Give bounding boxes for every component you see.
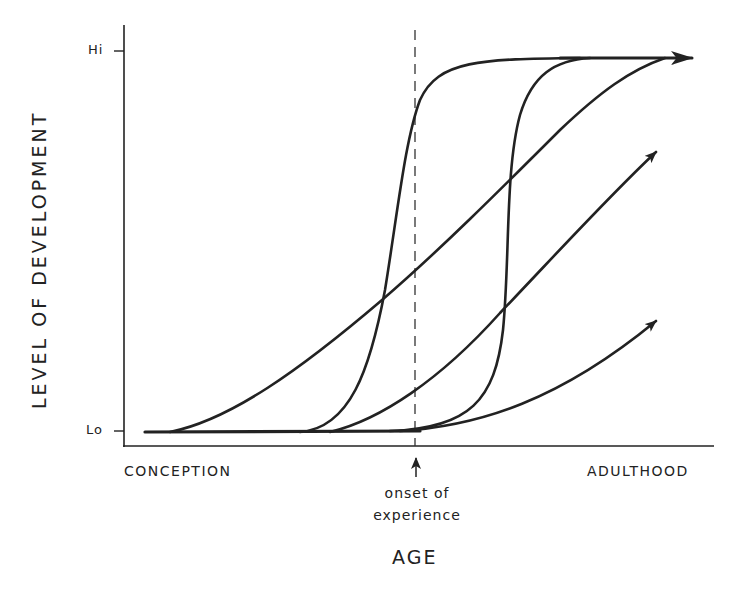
curve-slow: [400, 321, 656, 431]
curve-moderate: [330, 152, 656, 432]
x-label-adulthood: ADULTHOOD: [587, 463, 689, 479]
x-label-conception: CONCEPTION: [124, 463, 232, 479]
onset-line1: onset of: [372, 482, 462, 504]
curve-rapid-late: [390, 58, 590, 431]
y-tick-label-hi: Hi: [88, 42, 103, 57]
curves: [145, 58, 692, 432]
onset-of-experience-label: onset of experience: [372, 482, 462, 526]
y-tick-label-lo: Lo: [86, 422, 103, 437]
curve-rapid-early: [300, 58, 580, 432]
curve-gradual: [170, 58, 665, 432]
onset-line2: experience: [372, 504, 462, 526]
x-axis-title: AGE: [392, 546, 437, 568]
development-diagram: [0, 0, 738, 591]
axes: [114, 25, 714, 447]
baseline-curve: [145, 431, 420, 432]
y-axis-title: LEVEL OF DEVELOPMENT: [28, 111, 50, 409]
